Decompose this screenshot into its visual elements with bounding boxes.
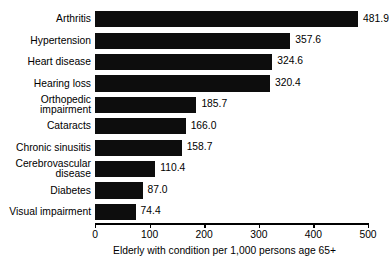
bar [95, 75, 270, 91]
bar-value-label: 481.9 [363, 14, 389, 25]
x-axis-tick-label: 100 [141, 229, 158, 240]
category-label: Visual impairment [0, 207, 91, 218]
bar-row: 357.6 [95, 30, 368, 51]
bar-row: 481.9 [95, 9, 368, 30]
bar-value-label: 166.0 [191, 121, 217, 132]
bar [95, 33, 290, 49]
category-axis-labels: ArthritisHypertensionHeart diseaseHearin… [0, 9, 91, 223]
bar-value-label: 185.7 [201, 99, 227, 110]
category-label: Hearing loss [0, 79, 91, 90]
bar-row: 185.7 [95, 95, 368, 116]
bar [95, 118, 186, 134]
bar-row: 74.4 [95, 202, 368, 223]
x-axis-title: Elderly with condition per 1,000 persons… [0, 245, 389, 256]
x-axis-tick [95, 223, 96, 228]
bar-row: 87.0 [95, 180, 368, 201]
bar-value-label: 320.4 [275, 78, 301, 89]
category-label: Hypertension [0, 36, 91, 47]
bar-chart: ArthritisHypertensionHeart diseaseHearin… [0, 0, 389, 262]
category-label: Orthopedic impairment [0, 95, 91, 116]
x-axis-tick-label: 500 [359, 229, 376, 240]
bar [95, 161, 155, 177]
bar-value-label: 74.4 [141, 206, 161, 217]
x-axis-tick-label: 300 [250, 229, 267, 240]
bar [95, 182, 143, 198]
bar [95, 11, 358, 27]
x-axis-tick [150, 223, 151, 228]
bar [95, 140, 182, 156]
x-axis-tick-label: 0 [92, 229, 98, 240]
bar-value-label: 324.6 [277, 56, 303, 67]
category-label: Arthritis [0, 14, 91, 25]
bar-row: 158.7 [95, 137, 368, 158]
x-axis-tick [204, 223, 205, 228]
bar [95, 97, 196, 113]
bar-row: 324.6 [95, 52, 368, 73]
bar-row: 320.4 [95, 73, 368, 94]
category-label: Cerebrovascular disease [0, 159, 91, 180]
bar-value-label: 158.7 [187, 142, 213, 153]
x-axis-tick [368, 223, 369, 228]
category-label: Diabetes [0, 186, 91, 197]
bar-value-label: 87.0 [148, 185, 168, 196]
bar [95, 204, 136, 220]
bar [95, 54, 272, 70]
x-axis-tick-label: 200 [196, 229, 213, 240]
x-axis-tick-label: 400 [305, 229, 322, 240]
plot-area: 481.9357.6324.6320.4185.7166.0158.7110.4… [95, 9, 368, 223]
x-axis-tick [313, 223, 314, 228]
bar-value-label: 357.6 [295, 35, 321, 46]
x-axis-tick [259, 223, 260, 228]
x-axis-line [95, 223, 369, 225]
x-axis-title-text: Elderly with condition per 1,000 persons… [53, 245, 336, 256]
category-label: Cataracts [0, 121, 91, 132]
bar-row: 110.4 [95, 159, 368, 180]
bar-value-label: 110.4 [160, 163, 185, 174]
category-label: Heart disease [0, 57, 91, 68]
category-label: Chronic sinusitis [0, 143, 91, 154]
bar-row: 166.0 [95, 116, 368, 137]
